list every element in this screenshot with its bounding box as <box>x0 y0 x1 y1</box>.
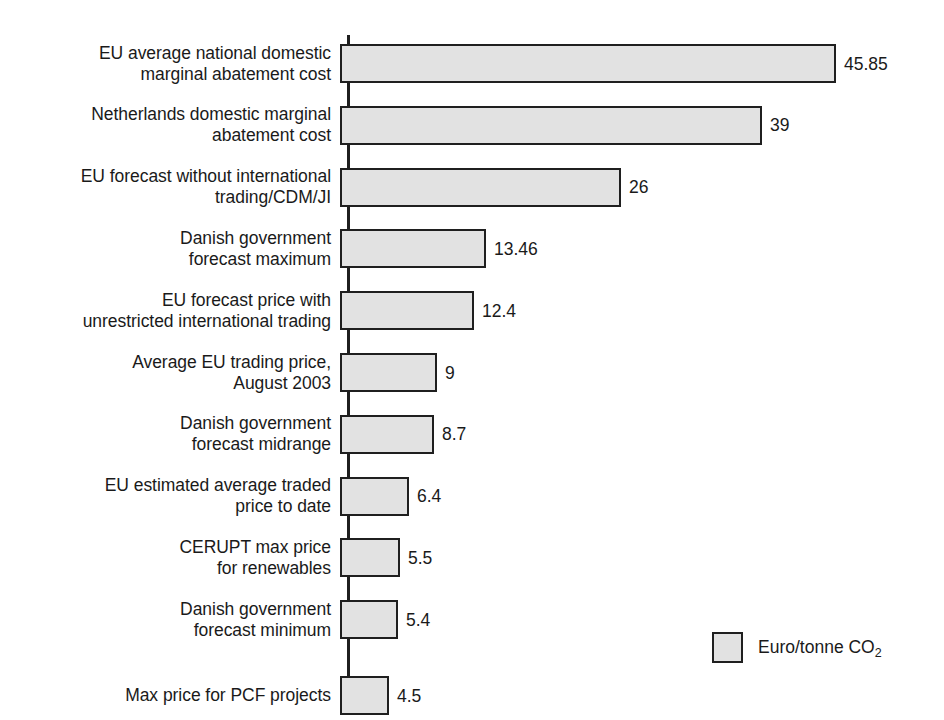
bar[interactable] <box>340 353 437 392</box>
bar-row: Danish government forecast maximum13.46 <box>0 229 944 268</box>
bar-row: Average EU trading price, August 20039 <box>0 353 944 392</box>
bar-row: EU estimated average traded price to dat… <box>0 477 944 516</box>
bar-category-label: EU forecast price with unrestricted inte… <box>0 290 340 332</box>
bar-category-label: Max price for PCF projects <box>0 685 340 706</box>
bar-value-label: 4.5 <box>397 686 421 706</box>
bar-row: Netherlands domestic marginal abatement … <box>0 106 944 145</box>
legend-label-euro-tonne-co2: Euro/tonne CO2 <box>758 637 882 658</box>
bar-track: 26 <box>340 168 944 207</box>
bar-track: 39 <box>340 106 944 145</box>
bar-track: 9 <box>340 353 944 392</box>
bar-track: 12.4 <box>340 291 944 330</box>
bar-value-label: 6.4 <box>417 486 441 506</box>
bar[interactable] <box>340 538 400 577</box>
bar-value-label: 9 <box>445 363 455 383</box>
bar[interactable] <box>340 600 398 639</box>
bar-category-label: Danish government forecast minimum <box>0 599 340 641</box>
bar-track: 6.4 <box>340 477 944 516</box>
bar[interactable] <box>340 229 486 268</box>
bar-category-label: EU forecast without international tradin… <box>0 166 340 208</box>
bar-track: 4.5 <box>340 676 944 715</box>
legend-swatch-euro-tonne-co2 <box>712 632 743 663</box>
bar-value-label: 12.4 <box>482 301 516 321</box>
bar-row: Max price for PCF projects4.5 <box>0 676 944 715</box>
bar-value-label: 45.85 <box>844 54 888 74</box>
chart-legend: Euro/tonne CO2 <box>712 632 882 663</box>
bar[interactable] <box>340 106 762 145</box>
bar[interactable] <box>340 676 389 715</box>
bar-track: 5.5 <box>340 538 944 577</box>
bar-row: Danish government forecast midrange8.7 <box>0 415 944 454</box>
bar-row: EU average national domestic marginal ab… <box>0 44 944 83</box>
bar[interactable] <box>340 415 434 454</box>
bar-value-label: 5.5 <box>408 548 432 568</box>
bar[interactable] <box>340 291 474 330</box>
bar-category-label: Netherlands domestic marginal abatement … <box>0 104 340 146</box>
bar-category-label: Average EU trading price, August 2003 <box>0 352 340 394</box>
bar-category-label: CERUPT max price for renewables <box>0 537 340 579</box>
legend-label-text: Euro/tonne CO <box>758 637 875 657</box>
bar-category-label: Danish government forecast midrange <box>0 413 340 455</box>
bar-chart: EU average national domestic marginal ab… <box>0 0 944 720</box>
bar-value-label: 8.7 <box>442 424 466 444</box>
bar-category-label: Danish government forecast maximum <box>0 228 340 270</box>
bar-value-label: 13.46 <box>494 239 538 259</box>
bar[interactable] <box>340 477 409 516</box>
bar-category-label: EU estimated average traded price to dat… <box>0 475 340 517</box>
bar[interactable] <box>340 44 836 83</box>
bar-row: EU forecast without international tradin… <box>0 168 944 207</box>
bar-value-label: 39 <box>770 115 789 135</box>
bar[interactable] <box>340 168 621 207</box>
bar-track: 13.46 <box>340 229 944 268</box>
bar-value-label: 26 <box>629 177 648 197</box>
bar-category-label: EU average national domestic marginal ab… <box>0 43 340 85</box>
legend-label-subscript: 2 <box>875 646 882 660</box>
bar-row: EU forecast price with unrestricted inte… <box>0 291 944 330</box>
bar-value-label: 5.4 <box>406 610 430 630</box>
bar-row: CERUPT max price for renewables5.5 <box>0 538 944 577</box>
bar-track: 45.85 <box>340 44 944 83</box>
bar-track: 8.7 <box>340 415 944 454</box>
